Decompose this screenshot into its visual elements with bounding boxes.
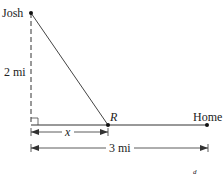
x-label: x — [64, 125, 71, 139]
diagonal-path-line — [31, 13, 108, 125]
total-distance-label: 3 mi — [109, 141, 131, 155]
route-diagram: Josh 2 mi R Home x 3 mi d — [0, 0, 223, 175]
josh-point — [29, 11, 33, 15]
vertical-distance-label: 2 mi — [4, 65, 26, 79]
r-label: R — [109, 110, 118, 124]
right-angle-marker — [31, 118, 38, 125]
josh-label: Josh — [2, 6, 23, 20]
home-label: Home — [193, 110, 222, 124]
stray-mark: d — [193, 168, 197, 175]
